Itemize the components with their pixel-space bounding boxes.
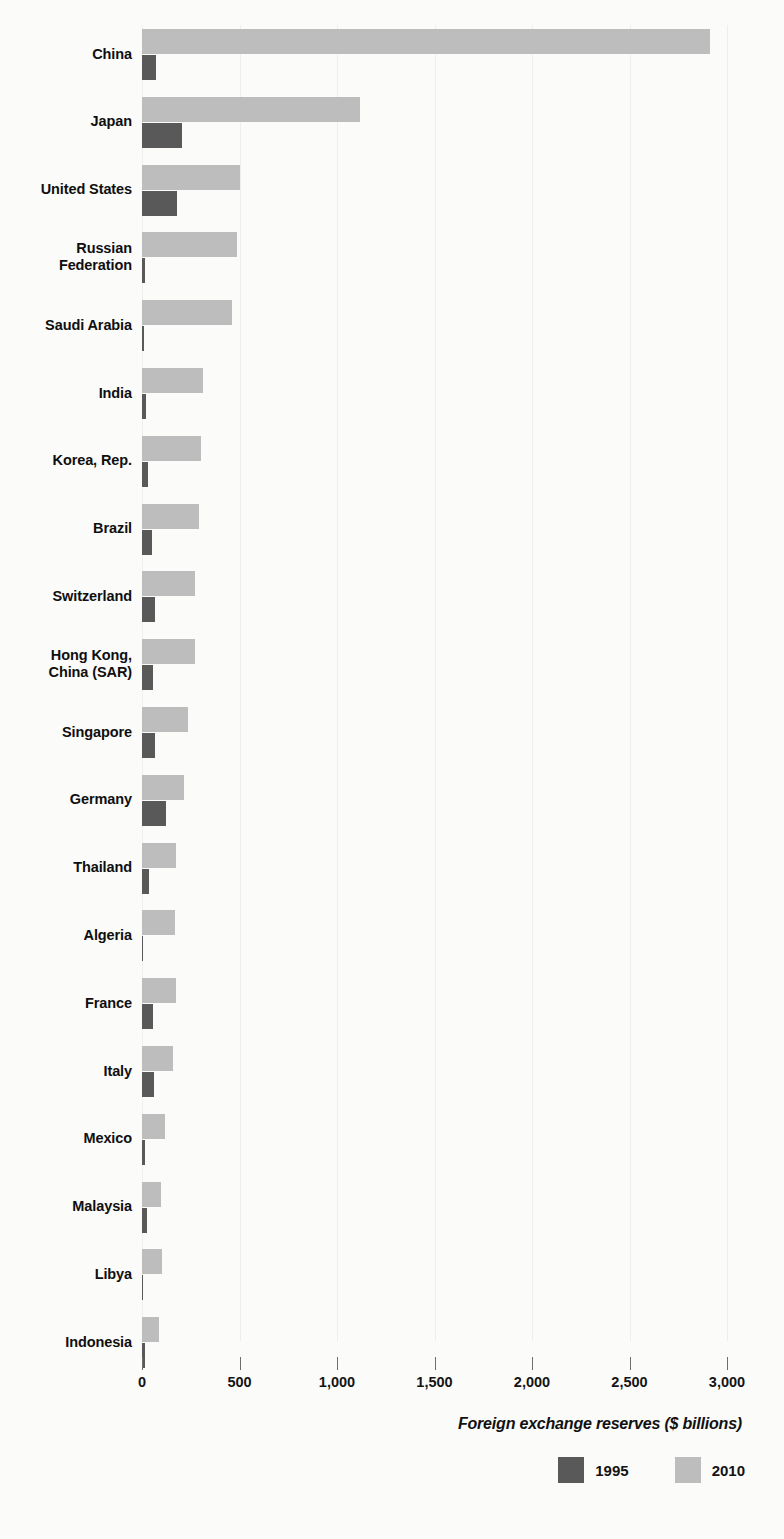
bar-2010: [142, 1182, 161, 1207]
bar-2010: [142, 1046, 173, 1071]
category-label-line: Algeria: [2, 927, 132, 944]
bar-1995: [142, 733, 155, 758]
bar-group: [142, 639, 727, 695]
legend-item: 1995: [558, 1457, 628, 1483]
category-label-line: United States: [2, 181, 132, 198]
bar-1995: [142, 530, 152, 555]
category-label-line: Hong Kong,: [2, 647, 132, 664]
category-label: India: [2, 385, 132, 402]
category-label: Switzerland: [2, 588, 132, 605]
bar-2010: [142, 165, 240, 190]
category-label: Saudi Arabia: [2, 317, 132, 334]
bar-group: [142, 1114, 727, 1170]
bar-chart: ChinaJapanUnited StatesRussianFederation…: [0, 0, 784, 1539]
bar-2010: [142, 368, 203, 393]
category-label: Germany: [2, 791, 132, 808]
bar-2010: [142, 232, 237, 257]
bar-2010: [142, 436, 201, 461]
category-label: Mexico: [2, 1130, 132, 1147]
x-tick: [142, 1357, 143, 1370]
bar-group: [142, 504, 727, 560]
category-label: Italy: [2, 1063, 132, 1080]
bar-1995: [142, 258, 145, 283]
bar-group: [142, 1249, 727, 1305]
bar-2010: [142, 1114, 165, 1139]
bar-1995: [142, 665, 153, 690]
category-label: Malaysia: [2, 1198, 132, 1215]
category-label-line: Saudi Arabia: [2, 317, 132, 334]
category-label: RussianFederation: [2, 240, 132, 274]
bar-2010: [142, 639, 195, 664]
bar-group: [142, 97, 727, 153]
bar-group: [142, 978, 727, 1034]
category-label: France: [2, 995, 132, 1012]
bar-1995: [142, 55, 156, 80]
legend-item: 2010: [675, 1457, 745, 1483]
bar-2010: [142, 571, 195, 596]
category-label-line: Switzerland: [2, 588, 132, 605]
x-tick: [337, 1357, 338, 1370]
bar-2010: [142, 1249, 162, 1274]
x-tick-label: 3,000: [709, 1374, 745, 1390]
bar-group: [142, 436, 727, 492]
category-label: Libya: [2, 1266, 132, 1283]
category-label-line: Russian: [2, 240, 132, 257]
bar-2010: [142, 97, 360, 122]
category-label-line: Korea, Rep.: [2, 452, 132, 469]
category-label: Thailand: [2, 859, 132, 876]
bar-1995: [142, 1072, 154, 1097]
category-label-line: Federation: [2, 257, 132, 274]
bar-2010: [142, 1317, 159, 1342]
bar-2010: [142, 775, 184, 800]
category-label-line: Germany: [2, 791, 132, 808]
bar-group: [142, 165, 727, 221]
bar-2010: [142, 978, 176, 1003]
bar-1995: [142, 597, 155, 622]
bar-1995: [142, 1275, 143, 1300]
bar-group: [142, 1182, 727, 1238]
bar-2010: [142, 707, 188, 732]
bar-2010: [142, 504, 199, 529]
category-axis-labels: ChinaJapanUnited StatesRussianFederation…: [0, 25, 132, 1341]
gridline: [727, 25, 728, 1341]
bar-2010: [142, 29, 710, 54]
x-tick: [240, 1357, 241, 1370]
x-tick-label: 2,500: [611, 1374, 647, 1390]
x-tick-label: 2,000: [514, 1374, 550, 1390]
category-label-line: India: [2, 385, 132, 402]
bar-group: [142, 775, 727, 831]
bar-group: [142, 300, 727, 356]
bar-2010: [142, 843, 176, 868]
bar-group: [142, 707, 727, 763]
bar-group: [142, 232, 727, 288]
category-label: Japan: [2, 113, 132, 130]
x-tick: [532, 1357, 533, 1370]
category-label-line: Brazil: [2, 520, 132, 537]
category-label-line: China: [2, 46, 132, 63]
x-axis: 05001,0001,5002,0002,5003,000: [142, 1341, 727, 1401]
bar-1995: [142, 394, 146, 419]
category-label-line: Thailand: [2, 859, 132, 876]
x-tick-label: 0: [138, 1374, 146, 1390]
bar-group: [142, 1046, 727, 1102]
bar-1995: [142, 801, 166, 826]
bar-1995: [142, 869, 149, 894]
category-label-line: Libya: [2, 1266, 132, 1283]
bar-1995: [142, 1208, 147, 1233]
x-tick: [435, 1357, 436, 1370]
category-label-line: Italy: [2, 1063, 132, 1080]
category-label: Indonesia: [2, 1334, 132, 1351]
x-tick-label: 1,500: [416, 1374, 452, 1390]
legend-swatch: [675, 1457, 701, 1483]
category-label-line: Indonesia: [2, 1334, 132, 1351]
category-label: United States: [2, 181, 132, 198]
category-label-line: France: [2, 995, 132, 1012]
bar-2010: [142, 910, 175, 935]
bar-group: [142, 29, 727, 85]
bar-group: [142, 368, 727, 424]
chart-legend: 19952010: [0, 1457, 745, 1483]
category-label-line: Malaysia: [2, 1198, 132, 1215]
category-label: China: [2, 46, 132, 63]
category-label-line: Japan: [2, 113, 132, 130]
plot-area: [142, 25, 727, 1341]
